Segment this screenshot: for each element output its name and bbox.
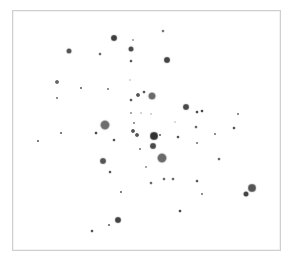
scatter-point — [244, 192, 249, 197]
scatter-point — [129, 79, 131, 81]
scatter-point — [107, 88, 109, 90]
scatter-point — [136, 93, 140, 97]
scatter-point — [113, 139, 116, 142]
scatter-point — [111, 35, 117, 41]
scatter-point — [101, 121, 110, 130]
scatter-plot-area — [0, 0, 293, 260]
scatter-point — [37, 140, 39, 142]
scatter-point — [174, 121, 176, 123]
scatter-point — [130, 112, 132, 114]
scatter-point — [159, 134, 161, 136]
scatter-point — [172, 178, 175, 181]
scatter-point — [108, 224, 110, 226]
scatter-point — [201, 110, 204, 113]
scatter-point — [195, 126, 198, 129]
scatter-point — [129, 47, 134, 52]
scatter-point — [149, 93, 156, 100]
scatter-point — [67, 49, 72, 54]
scatter-point — [143, 91, 146, 94]
scatter-point — [248, 184, 256, 192]
scatter-point — [196, 180, 199, 183]
scatter-point — [163, 178, 166, 181]
scatter-point — [60, 132, 62, 134]
scatter-point — [56, 97, 58, 99]
scatter-point — [162, 30, 165, 33]
scatter-point — [196, 111, 199, 114]
scatter-point — [237, 113, 239, 115]
scatter-point — [135, 133, 139, 137]
scatter-point — [140, 112, 142, 114]
scatter-point — [201, 193, 203, 195]
scatter-point — [100, 158, 106, 164]
scatter-point — [150, 132, 158, 140]
scatter-point — [120, 191, 122, 193]
scatter-point — [132, 39, 134, 41]
scatter-point — [214, 133, 216, 135]
scatter-point — [179, 210, 182, 213]
scatter-point — [95, 132, 98, 135]
scatter-point — [109, 171, 112, 174]
scatter-point — [158, 154, 167, 163]
scatter-point — [55, 80, 59, 84]
scatter-point — [133, 122, 135, 124]
scatter-point — [150, 182, 153, 185]
scatter-point — [80, 87, 82, 89]
scatter-point — [145, 166, 147, 168]
scatter-point — [115, 217, 121, 223]
scatter-point — [131, 129, 135, 133]
scatter-point — [99, 53, 102, 56]
scatter-point — [196, 142, 198, 144]
scatter-point — [218, 158, 221, 161]
scatter-point — [150, 143, 156, 149]
scatter-point — [139, 148, 141, 150]
scatter-point — [150, 113, 152, 115]
scatter-point — [130, 99, 133, 102]
scatter-point — [183, 104, 189, 110]
scatter-point — [177, 136, 180, 139]
scatter-point — [164, 57, 170, 63]
scatter-point — [233, 127, 236, 130]
scatter-point — [130, 60, 133, 63]
scatter-point — [91, 230, 94, 233]
